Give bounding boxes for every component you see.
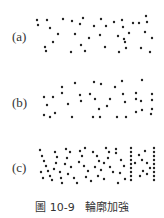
dot — [87, 170, 89, 172]
dot — [100, 18, 102, 20]
dot — [94, 98, 96, 100]
dot — [149, 167, 151, 169]
panel-label-a: (a) — [12, 29, 26, 45]
dot — [43, 114, 45, 116]
dot — [123, 165, 125, 167]
dot — [135, 92, 137, 94]
dot — [104, 46, 106, 48]
caption-number: 圖 10-9 — [35, 201, 74, 214]
dot — [140, 100, 142, 102]
dot — [132, 22, 134, 24]
dot — [139, 175, 141, 177]
dot — [145, 15, 147, 17]
dot — [115, 148, 117, 150]
dot — [36, 19, 38, 21]
dot — [130, 155, 132, 157]
dot — [130, 179, 132, 181]
dot — [69, 151, 71, 153]
dot — [142, 170, 144, 172]
dot — [76, 182, 78, 184]
dot — [54, 112, 56, 114]
dot — [92, 151, 94, 153]
dot — [67, 173, 69, 175]
dot — [92, 116, 94, 118]
dot — [116, 116, 118, 118]
dot — [153, 155, 155, 157]
dot — [151, 37, 153, 39]
dot — [73, 177, 75, 179]
dot — [106, 105, 108, 107]
dot — [45, 165, 47, 167]
dot — [84, 50, 86, 52]
dot — [103, 178, 105, 180]
dot — [141, 159, 143, 161]
dot — [60, 177, 62, 179]
dot — [124, 101, 126, 103]
dot — [122, 93, 124, 95]
dot — [54, 151, 56, 153]
dot — [65, 148, 67, 150]
dot — [70, 166, 72, 168]
dot — [41, 155, 43, 157]
dot — [46, 19, 48, 21]
dot — [56, 156, 58, 158]
dot — [42, 177, 44, 179]
dot — [88, 37, 90, 39]
dot — [119, 172, 121, 174]
dot — [90, 180, 92, 182]
dot — [153, 167, 155, 169]
dot — [130, 163, 132, 165]
dot — [130, 159, 132, 161]
dot — [103, 162, 105, 164]
dot — [153, 147, 155, 149]
dot — [112, 171, 114, 173]
dot — [115, 152, 117, 154]
dot — [109, 98, 111, 100]
dot — [59, 171, 61, 173]
dot — [57, 33, 59, 35]
dot — [146, 162, 148, 164]
dot — [52, 41, 54, 43]
dot — [71, 116, 73, 118]
dot — [84, 147, 86, 149]
dot — [128, 32, 130, 34]
dot — [151, 93, 153, 95]
dot — [40, 171, 42, 173]
dot — [141, 79, 143, 81]
dot — [46, 104, 48, 106]
dot — [39, 149, 41, 151]
dot — [80, 100, 82, 102]
dot — [61, 86, 63, 88]
dot — [98, 160, 100, 162]
dot — [150, 113, 152, 115]
dot — [146, 173, 148, 175]
dot — [118, 51, 120, 53]
dot — [130, 151, 132, 153]
dot — [124, 41, 126, 43]
dot — [97, 175, 99, 177]
dot — [79, 23, 81, 25]
dot — [134, 162, 136, 164]
dot — [45, 50, 47, 52]
dot — [153, 175, 155, 177]
dot-group-c — [39, 147, 155, 184]
dot — [105, 147, 107, 149]
dot — [79, 150, 81, 152]
dot — [89, 93, 91, 95]
dot — [153, 151, 155, 153]
dot — [153, 171, 155, 173]
dot — [135, 111, 137, 113]
dot — [144, 150, 146, 152]
dot — [49, 116, 51, 118]
dot — [117, 182, 119, 184]
dot — [100, 169, 102, 171]
dot — [138, 154, 140, 156]
dot — [125, 116, 127, 118]
dot — [117, 35, 119, 37]
dot — [108, 151, 110, 153]
dot — [61, 92, 63, 94]
dot — [71, 20, 73, 22]
dot — [124, 178, 126, 180]
dot — [49, 27, 51, 29]
panel-label-b: (b) — [12, 95, 27, 111]
